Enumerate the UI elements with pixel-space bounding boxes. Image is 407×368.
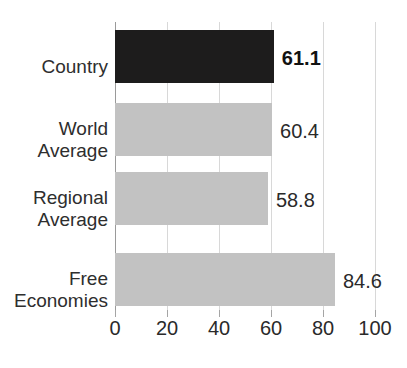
chart-title: [0, 0, 407, 5]
category-label-country: Country: [2, 56, 108, 78]
tick-label-100: 100: [358, 318, 391, 338]
category-label-regional-average: Regional Average: [2, 187, 108, 231]
category-label-line: Economies: [2, 290, 108, 312]
tick-label-0: 0: [109, 318, 120, 338]
category-label-line: Regional: [2, 187, 108, 209]
bar-country[interactable]: [115, 30, 274, 83]
tick-label-80: 80: [312, 318, 334, 338]
tick-mark-80: [323, 310, 324, 317]
category-label-free-economies: Free Economies: [2, 268, 108, 312]
tick-mark-20: [167, 310, 168, 317]
tick-mark-60: [271, 310, 272, 317]
bar-free-economies[interactable]: [115, 253, 335, 306]
tick-label-20: 20: [156, 318, 178, 338]
category-label-line: Average: [2, 209, 108, 231]
value-label-regional-average: 58.8: [276, 190, 315, 210]
tick-label-60: 60: [260, 318, 282, 338]
category-label-line: Average: [2, 140, 108, 162]
value-label-world-average: 60.4: [280, 121, 319, 141]
category-axis: Country World Average Regional Average F…: [0, 22, 108, 310]
category-label-line: Country: [2, 56, 108, 78]
bar-regional-average[interactable]: [115, 172, 268, 225]
category-label-line: World: [2, 118, 108, 140]
tick-mark-40: [219, 310, 220, 317]
gridline-100: [375, 22, 376, 310]
category-label-world-average: World Average: [2, 118, 108, 162]
tick-mark-100: [375, 310, 376, 317]
bar-chart: Country World Average Regional Average F…: [0, 0, 407, 368]
tick-mark-0: [115, 310, 116, 317]
x-axis-labels: 0 20 40 60 80 100: [0, 318, 407, 348]
value-label-country: 61.1: [282, 48, 321, 68]
value-label-free-economies: 84.6: [343, 271, 382, 291]
category-label-line: Free: [2, 268, 108, 290]
tick-label-40: 40: [208, 318, 230, 338]
bar-world-average[interactable]: [115, 103, 272, 156]
plot-area: 61.1 60.4 58.8 84.6: [115, 22, 375, 310]
